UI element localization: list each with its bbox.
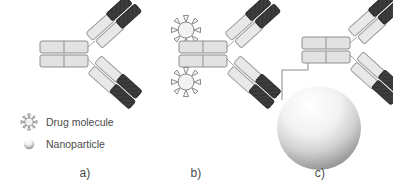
drug-molecule-icon [18, 113, 40, 131]
legend-item-drug-molecule: Drug molecule [18, 112, 148, 132]
panel-label-a: a) [65, 166, 105, 180]
fc-region [302, 37, 350, 63]
legend-item-nanoparticle: Nanoparticle [18, 134, 148, 154]
fc-region [179, 41, 227, 67]
hinge-linkers [88, 41, 95, 66]
drug-molecule-bottom [172, 68, 201, 97]
legend-label-nanoparticle: Nanoparticle [46, 138, 105, 150]
panel-label-c: c) [300, 166, 340, 180]
legend: Drug molecule Nanoparticle [18, 112, 148, 156]
hinge-linkers [350, 37, 357, 62]
hinge-linkers [227, 41, 234, 66]
panel-c-antibody-nanoparticle-conjugate [262, 0, 393, 160]
figure-canvas: Drug molecule Nanoparticle a) b [0, 0, 393, 192]
fc-region [40, 41, 88, 67]
panel-b-antibody-drug-conjugate [131, 0, 262, 160]
nanoparticle-icon [18, 135, 40, 153]
nanoparticle-sphere [277, 86, 361, 170]
drug-molecule-top [172, 16, 201, 45]
panel-label-b: b) [176, 166, 216, 180]
legend-label-drug-molecule: Drug molecule [46, 116, 114, 128]
